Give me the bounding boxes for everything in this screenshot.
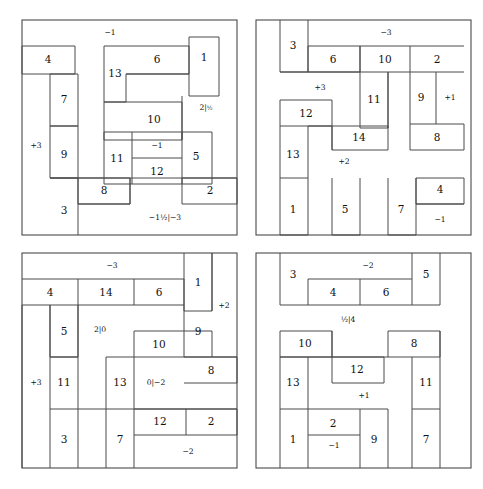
- annotation-label: +1: [358, 391, 369, 400]
- panel-4-frame: [256, 253, 471, 468]
- piece-number: 6: [383, 286, 390, 298]
- piece-number: 11: [419, 376, 432, 388]
- piece-number: 13: [286, 376, 299, 388]
- puzzle-sheet: 1 4 6 13 7 10 9 11 12 5 8 3 2 −1 2|½ −1: [0, 0, 483, 489]
- annotation-label: −2: [362, 261, 373, 270]
- piece-number: 12: [350, 363, 363, 375]
- piece-number: 8: [411, 337, 418, 349]
- piece-number: 7: [423, 433, 430, 445]
- piece-number: 10: [298, 337, 311, 349]
- piece-number: 1: [290, 433, 297, 445]
- piece-number: 3: [290, 268, 297, 280]
- panel-4-pieces: [280, 253, 440, 468]
- piece-number: 2: [330, 417, 337, 429]
- piece-number: 5: [423, 268, 430, 280]
- panel-bottom-right[interactable]: 3 4 6 5 10 8 12 13 11 1 2 9 7 −2 ½|4 +1 …: [0, 0, 483, 489]
- annotation-label: ½|4: [341, 315, 356, 324]
- piece-number: 9: [371, 433, 378, 445]
- annotation-label: −1: [328, 441, 339, 450]
- piece-number: 4: [330, 286, 337, 298]
